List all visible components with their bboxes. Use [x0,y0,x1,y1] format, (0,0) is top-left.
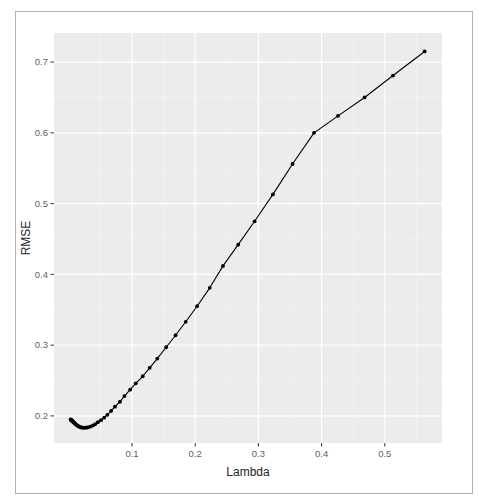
plot-panel [54,33,442,443]
data-point [236,243,240,247]
data-point [423,50,427,54]
data-point [363,96,367,100]
data-point [391,74,395,78]
y-tick-label: 0.2 [35,410,48,421]
y-axis-title-text: RMSE [19,221,33,256]
data-point [99,418,103,422]
data-point [105,413,109,417]
x-tick-label: 0.2 [189,448,202,459]
x-tick-labels: 0.10.20.30.40.5 [125,448,391,459]
x-tick-label: 0.1 [125,448,138,459]
screenshot-root: 0.10.20.30.40.50.20.30.40.50.60.7 Lambda… [0,0,479,501]
data-point [109,409,113,413]
data-point [174,333,178,337]
y-tick-label: 0.6 [35,127,48,138]
data-point [184,320,188,324]
data-point [69,418,73,422]
data-point [148,366,152,370]
y-tick-label: 0.5 [35,198,48,209]
data-point [195,304,199,308]
y-tick-label: 0.4 [35,269,48,280]
data-point [102,416,106,420]
y-tick-labels: 0.20.30.40.50.60.7 [35,56,48,421]
data-point [208,286,212,290]
data-point [336,114,340,118]
data-point [291,162,295,166]
data-point [123,394,127,398]
data-point [118,400,122,404]
data-point [221,264,225,268]
data-point [253,219,257,223]
data-point [164,345,168,349]
data-point [141,374,145,378]
data-point [155,357,159,361]
y-tick-label: 0.7 [35,56,48,67]
y-axis-title: RMSE [17,33,35,443]
y-tick-label: 0.3 [35,339,48,350]
x-tick-label: 0.3 [252,448,265,459]
x-tick-label: 0.5 [378,448,391,459]
data-point [134,381,138,385]
data-point [312,131,316,135]
data-point [128,388,132,392]
x-tick-label: 0.4 [315,448,328,459]
data-point [271,193,275,197]
x-axis-title: Lambda [54,465,442,479]
data-point [113,405,117,409]
chart-canvas: 0.10.20.30.40.50.20.30.40.50.60.7 [0,0,479,501]
